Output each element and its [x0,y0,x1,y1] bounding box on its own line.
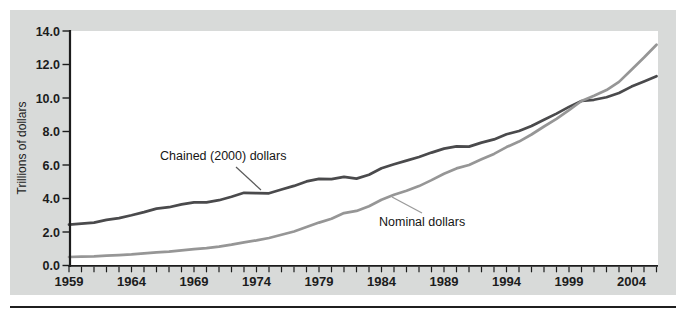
svg-text:14.0: 14.0 [36,25,60,39]
plot-area [70,31,658,266]
svg-text:1969: 1969 [180,274,209,289]
svg-text:0.0: 0.0 [43,259,60,273]
svg-text:8.0: 8.0 [43,125,60,139]
svg-text:1999: 1999 [555,274,584,289]
svg-text:12.0: 12.0 [36,58,60,72]
svg-text:2.0: 2.0 [43,226,60,240]
series-label-chained-dollars: Chained (2000) dollars [160,149,286,163]
chart-plot: 0.02.04.06.08.010.012.014.01959196419691… [0,0,686,316]
svg-text:1989: 1989 [430,274,459,289]
bottom-rule-divider [10,306,676,308]
svg-text:1984: 1984 [367,274,397,289]
svg-text:1994: 1994 [492,274,522,289]
svg-text:10.0: 10.0 [36,92,60,106]
svg-text:1964: 1964 [117,274,147,289]
svg-text:2004: 2004 [617,274,647,289]
svg-text:1979: 1979 [305,274,334,289]
svg-text:1959: 1959 [55,274,84,289]
svg-text:4.0: 4.0 [43,192,60,206]
gdp-chart-figure: 0.02.04.06.08.010.012.014.01959196419691… [0,0,686,316]
svg-text:1974: 1974 [242,274,272,289]
y-axis-title: Trillions of dollars [15,102,29,195]
series-label-nominal-dollars: Nominal dollars [379,215,465,229]
svg-text:6.0: 6.0 [43,159,60,173]
